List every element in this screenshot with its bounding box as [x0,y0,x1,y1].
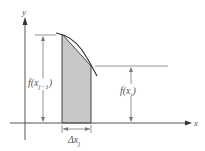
width-label: Δxj [67,134,80,148]
right-dim-arrow-down-icon [129,117,133,122]
right-dim-arrow-up-icon [129,67,133,72]
shaded-strip [62,34,91,123]
right-height-label: f(xj) [120,85,137,99]
x-axis-label: x [193,118,198,128]
diagram-canvas: x y f(xj−1) f(xj) Δxj [0,0,205,151]
y-axis-arrow-icon [23,17,28,25]
left-dim-arrow-down-icon [41,117,45,122]
left-dim-arrow-up-icon [41,36,45,41]
left-height-label: f(xj−1) [28,77,53,91]
width-arrow-right-icon [85,127,90,131]
x-axis-arrow-icon [185,121,192,126]
y-axis-label: y [21,7,26,17]
width-arrow-left-icon [63,127,68,131]
